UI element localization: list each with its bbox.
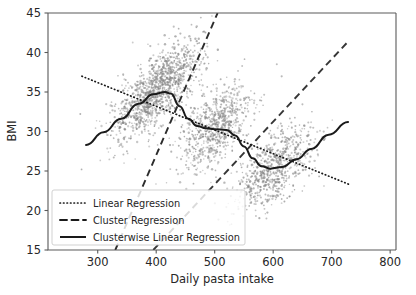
scatter-point <box>126 99 128 101</box>
scatter-point <box>331 119 333 121</box>
scatter-point <box>186 91 188 93</box>
scatter-point <box>183 53 185 55</box>
scatter-point <box>264 194 266 196</box>
scatter-point <box>180 77 182 79</box>
scatter-point <box>238 159 239 160</box>
scatter-point <box>135 119 137 121</box>
scatter-point <box>109 147 111 149</box>
scatter-point <box>185 59 187 61</box>
scatter-point <box>210 182 212 184</box>
chart-legend[interactable]: Linear RegressionCluster RegressionClust… <box>52 190 245 245</box>
scatter-point <box>211 144 213 146</box>
scatter-point <box>205 114 207 116</box>
scatter-point <box>245 102 247 104</box>
scatter-point <box>246 209 248 211</box>
scatter-point <box>245 96 247 98</box>
scatter-point <box>157 144 159 146</box>
scatter-point <box>141 130 143 132</box>
scatter-point <box>142 121 144 123</box>
scatter-point <box>192 61 194 63</box>
scatter-point <box>209 114 211 116</box>
scatter-point <box>178 28 180 30</box>
scatter-point <box>151 111 153 113</box>
scatter-point <box>285 180 287 182</box>
scatter-point <box>203 158 204 159</box>
scatter-point <box>131 97 133 99</box>
scatter-point <box>228 86 230 88</box>
scatter-point <box>181 80 183 82</box>
scatter-point <box>308 131 310 133</box>
scatter-point <box>292 184 294 186</box>
scatter-point <box>306 140 308 142</box>
scatter-point <box>184 136 186 138</box>
scatter-point <box>192 51 194 53</box>
scatter-point <box>231 105 233 107</box>
scatter-point <box>210 136 211 137</box>
scatter-point <box>160 56 161 57</box>
scatter-point <box>161 105 163 107</box>
scatter-point <box>212 84 214 86</box>
scatter-point <box>279 164 281 166</box>
scatter-point <box>199 171 201 173</box>
scatter-point <box>260 175 262 177</box>
scatter-point <box>246 184 248 186</box>
scatter-point <box>237 70 239 72</box>
scatter-point <box>275 182 277 184</box>
scatter-point <box>138 116 140 118</box>
scatter-point <box>270 135 272 137</box>
scatter-point <box>132 86 134 88</box>
scatter-point <box>121 122 123 124</box>
scatter-point <box>144 92 146 94</box>
scatter-point <box>240 104 242 106</box>
x-tick-label: 500 <box>204 255 226 269</box>
scatter-point <box>244 98 246 100</box>
scatter-point <box>213 101 215 103</box>
scatter-point <box>150 114 152 116</box>
scatter-point <box>227 145 229 147</box>
scatter-point <box>196 157 198 159</box>
scatter-point <box>247 108 249 110</box>
scatter-point <box>260 197 262 199</box>
scatter-point <box>207 147 209 149</box>
scatter-point <box>196 68 198 70</box>
scatter-point <box>230 121 232 123</box>
scatter-point <box>176 71 177 72</box>
scatter-point <box>277 188 279 190</box>
scatter-point <box>165 71 167 73</box>
scatter-point <box>222 123 224 125</box>
scatter-point <box>150 82 152 84</box>
scatter-point <box>202 147 204 149</box>
scatter-point <box>232 97 234 99</box>
scatter-point <box>108 158 110 160</box>
scatter-point <box>299 142 301 144</box>
scatter-point <box>256 154 257 155</box>
scatter-point <box>127 125 129 127</box>
scatter-point <box>137 91 139 93</box>
scatter-point <box>194 155 196 157</box>
scatter-point <box>180 132 182 134</box>
scatter-point <box>262 201 264 203</box>
scatter-point <box>203 30 205 32</box>
scatter-point <box>219 145 221 147</box>
scatter-point <box>192 91 194 93</box>
scatter-point <box>244 183 246 185</box>
scatter-point <box>117 139 119 141</box>
scatter-point <box>172 84 174 86</box>
scatter-point <box>205 54 207 56</box>
scatter-point <box>265 218 267 220</box>
scatter-point <box>207 141 209 143</box>
scatter-point <box>265 145 267 147</box>
scatter-point <box>238 180 240 182</box>
scatter-point <box>179 33 181 35</box>
scatter-point <box>150 109 152 111</box>
scatter-point <box>111 130 113 132</box>
scatter-point <box>254 170 256 172</box>
scatter-point <box>246 179 248 181</box>
scatter-point <box>156 76 158 78</box>
scatter-point <box>151 101 153 103</box>
scatter-point <box>130 135 132 137</box>
scatter-point <box>207 138 209 140</box>
scatter-point <box>256 104 258 106</box>
scatter-point <box>252 183 254 185</box>
scatter-point <box>199 118 201 120</box>
